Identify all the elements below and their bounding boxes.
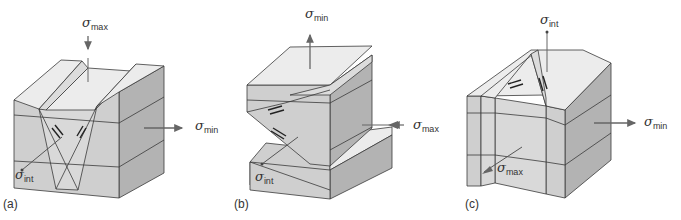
stress-label-horizontal-b: σmax xyxy=(413,117,439,134)
stress-label-vertical-a: σmax xyxy=(82,15,108,32)
stress-label-vertical-c: σint xyxy=(540,12,559,29)
stress-label-horizontal-a: σmin xyxy=(195,118,218,135)
fault-stress-diagram: σmax σmin σint (a) σmin xyxy=(0,0,681,220)
panel-label-c: (c) xyxy=(465,197,479,211)
panel-a-normal-fault: σmax σmin σint (a) xyxy=(3,15,218,211)
panel-label-a: (a) xyxy=(3,197,18,211)
panel-b-thrust-fault: σmin σmax σint (b) xyxy=(234,6,439,211)
stress-label-horizontal-c: σmin xyxy=(644,114,667,131)
stress-label-vertical-b: σmin xyxy=(305,6,328,23)
panel-c-strike-slip-fault: σint σmin σmax (c) xyxy=(465,12,667,211)
panel-label-b: (b) xyxy=(234,197,249,211)
